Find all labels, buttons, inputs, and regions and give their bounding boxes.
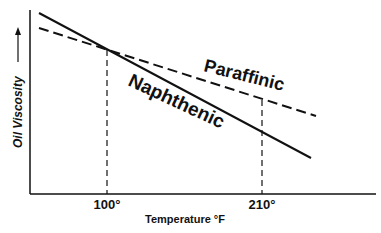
viscosity-temperature-chart: Naphthenic Paraffinic 100° 210° Temperat… <box>0 0 381 233</box>
x-tick-100: 100° <box>94 197 121 212</box>
y-axis-arrowhead-icon <box>15 27 21 35</box>
x-axis-label: Temperature °F <box>145 213 225 225</box>
paraffinic-label: Paraffinic <box>202 55 286 94</box>
chart-canvas: Naphthenic Paraffinic 100° 210° Temperat… <box>0 0 381 233</box>
y-axis-label: Oil Viscosity <box>11 75 25 148</box>
naphthenic-label: Naphthenic <box>125 70 228 133</box>
x-tick-210: 210° <box>249 197 276 212</box>
